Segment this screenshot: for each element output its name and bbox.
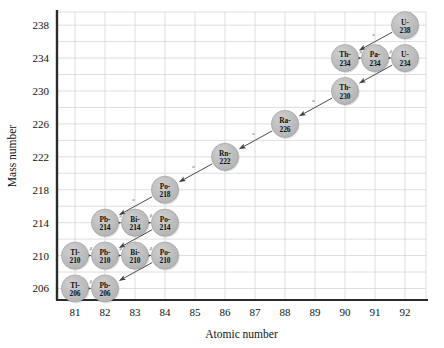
chart-root: αββαααααββαβββαβ U-238Th-234Pa-234U-234T… <box>0 0 444 348</box>
x-tick-label: 84 <box>160 306 172 318</box>
node-mass-label: 210 <box>159 256 170 265</box>
x-tick-label: 92 <box>400 306 411 318</box>
node-mass-label: 226 <box>279 125 290 134</box>
node-mass-label: 214 <box>159 223 170 232</box>
y-tick-label: 238 <box>33 19 50 31</box>
node-mass-label: 214 <box>99 223 110 232</box>
node-mass-label: 210 <box>129 256 140 265</box>
y-axis-title: Mass number <box>6 125 18 187</box>
x-tick-label: 83 <box>130 306 142 318</box>
node-mass-label: 238 <box>399 26 410 35</box>
node-mass-label: 234 <box>399 59 410 68</box>
node-mass-label: 218 <box>159 190 170 199</box>
y-tick-label: 210 <box>33 250 50 262</box>
node-mass-label: 234 <box>369 59 380 68</box>
x-tick-label: 88 <box>280 306 292 318</box>
x-tick-label: 82 <box>100 306 111 318</box>
y-tick-label: 206 <box>33 282 50 294</box>
x-tick-label: 81 <box>70 306 81 318</box>
x-tick-label: 91 <box>370 306 381 318</box>
node-mass-label: 230 <box>339 92 350 101</box>
y-tick-label: 234 <box>33 52 50 64</box>
x-tick-label: 89 <box>310 306 322 318</box>
x-axis-title: Atomic number <box>205 328 278 340</box>
node-mass-label: 214 <box>129 223 140 232</box>
y-tick-label: 230 <box>33 85 50 97</box>
node-mass-label: 206 <box>69 289 80 298</box>
node-mass-label: 222 <box>219 157 230 166</box>
node-mass-label: 234 <box>339 59 350 68</box>
x-tick-label: 87 <box>250 306 262 318</box>
y-tick-label: 218 <box>33 184 50 196</box>
node-mass-label: 210 <box>69 256 80 265</box>
y-tick-label: 214 <box>33 217 50 229</box>
x-tick-label: 90 <box>340 306 352 318</box>
node-mass-label: 210 <box>99 256 110 265</box>
y-tick-label: 222 <box>33 151 50 163</box>
node-mass-label: 206 <box>99 289 110 298</box>
decay-series-chart: αββαααααββαβββαβ U-238Th-234Pa-234U-234T… <box>0 0 444 348</box>
y-tick-label: 226 <box>33 118 50 130</box>
y-tick-labels: 206210214218222226230234238 <box>33 19 50 294</box>
x-tick-label: 85 <box>190 306 202 318</box>
x-tick-label: 86 <box>220 306 232 318</box>
